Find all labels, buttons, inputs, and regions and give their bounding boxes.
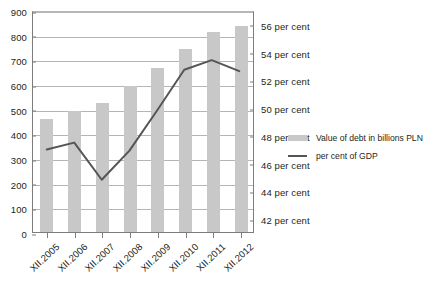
x-axis-tick — [102, 232, 103, 238]
tick-mark — [250, 192, 254, 193]
y-axis-left-tick: 200 — [11, 179, 33, 190]
line-series — [33, 12, 253, 232]
tick-mark — [32, 234, 36, 235]
tick-mark — [250, 54, 254, 55]
chart-container: 0100200300400500600700800900 42 per cent… — [0, 0, 444, 296]
y-axis-right-tick: 50 per cent — [253, 104, 310, 115]
tick-mark — [32, 111, 36, 112]
x-axis-label-XII.2010: XII.2010 — [166, 241, 200, 274]
y-axis-left-tick: 0 — [22, 229, 33, 240]
legend-item-bars: Value of debt in billions PLN — [288, 133, 423, 143]
chart-legend: Value of debt in billions PLN per cent o… — [288, 133, 423, 169]
legend-item-line: per cent of GDP — [288, 151, 423, 161]
tick-mark — [32, 135, 36, 136]
y-axis-left-tick: 300 — [11, 155, 33, 166]
line-series-svg — [33, 12, 253, 232]
tick-mark — [250, 26, 254, 27]
plot-area: 0100200300400500600700800900 42 per cent… — [32, 11, 254, 233]
tick-mark — [32, 61, 36, 62]
tick-mark — [32, 86, 36, 87]
x-axis-label-XII.2009: XII.2009 — [138, 241, 172, 274]
y-axis-left-tick: 600 — [11, 81, 33, 92]
tick-mark — [32, 37, 36, 38]
x-axis-label-XII.2005: XII.2005 — [27, 241, 61, 274]
y-axis-left-tick: 500 — [11, 105, 33, 116]
tick-mark — [32, 12, 36, 13]
tick-mark — [32, 209, 36, 210]
y-axis-right-tick: 42 per cent — [253, 215, 310, 226]
x-axis-tick — [47, 232, 48, 238]
legend-label-line: per cent of GDP — [316, 151, 378, 161]
legend-line-swatch-icon — [288, 155, 307, 157]
x-axis-tick — [75, 232, 76, 238]
x-axis-tick — [186, 232, 187, 238]
x-axis-label-XII.2012: XII.2012 — [222, 241, 256, 274]
y-axis-right-tick: 52 per cent — [253, 76, 310, 87]
tick-mark — [32, 185, 36, 186]
y-axis-left-tick: 100 — [11, 204, 33, 215]
y-axis-left-tick: 400 — [11, 130, 33, 141]
x-axis-tick — [130, 232, 131, 238]
x-axis-label-XII.2006: XII.2006 — [55, 241, 89, 274]
x-axis-tick — [241, 232, 242, 238]
x-axis-tick — [158, 232, 159, 238]
tick-mark — [250, 137, 254, 138]
tick-mark — [250, 109, 254, 110]
gdp-line-path — [47, 60, 240, 180]
legend-bar-swatch-icon — [288, 135, 307, 141]
y-axis-right-tick: 56 per cent — [253, 20, 310, 31]
y-axis-left-tick: 900 — [11, 7, 33, 18]
tick-mark — [250, 81, 254, 82]
tick-mark — [250, 220, 254, 221]
x-axis-tick — [213, 232, 214, 238]
tick-mark — [250, 165, 254, 166]
x-axis-label-XII.2007: XII.2007 — [83, 241, 117, 274]
x-axis-label-XII.2008: XII.2008 — [111, 241, 145, 274]
y-axis-left-tick: 800 — [11, 31, 33, 42]
x-axis-label-XII.2011: XII.2011 — [194, 241, 227, 273]
y-axis-right-tick: 44 per cent — [253, 187, 310, 198]
tick-mark — [32, 160, 36, 161]
y-axis-left-tick: 700 — [11, 56, 33, 67]
legend-label-bars: Value of debt in billions PLN — [316, 133, 423, 143]
y-axis-right-tick: 54 per cent — [253, 48, 310, 59]
